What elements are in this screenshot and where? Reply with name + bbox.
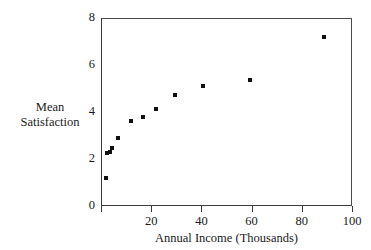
data-point (322, 35, 326, 39)
data-points-layer (102, 19, 351, 205)
y-axis-tick-label: 2 (65, 152, 95, 164)
x-axis-tick-mark (252, 206, 253, 212)
x-axis-tick-mark (151, 206, 152, 212)
y-axis-tick-label: 0 (65, 199, 95, 211)
x-axis-tick-label: 80 (282, 214, 322, 228)
data-point (173, 93, 177, 97)
y-axis-title-line-1: Mean (6, 100, 94, 115)
y-axis-title-line-2: Satisfaction (6, 115, 94, 130)
x-axis-tick-label: 100 (332, 214, 371, 228)
x-axis-tick-label: 20 (131, 214, 171, 228)
x-axis-tick-label: 40 (181, 214, 221, 228)
data-point (154, 107, 158, 111)
x-axis-tick-mark (302, 206, 303, 212)
data-point (248, 78, 252, 82)
data-point (108, 150, 112, 154)
data-point (110, 146, 114, 150)
data-point (141, 115, 145, 119)
x-axis-tick-mark (101, 206, 102, 212)
data-point (129, 119, 133, 123)
x-axis-tick-mark (352, 206, 353, 212)
plot-area (101, 18, 352, 206)
x-axis-tick-label: 60 (232, 214, 272, 228)
data-point (201, 84, 205, 88)
data-point (104, 176, 108, 180)
y-axis-title: Mean Satisfaction (6, 100, 94, 130)
data-point (116, 136, 120, 140)
y-axis-tick-label: 8 (65, 11, 95, 23)
x-axis-tick-mark (201, 206, 202, 212)
y-axis-tick-label: 6 (65, 58, 95, 70)
scatter-plot-figure: 02468 20406080100 Mean Satisfaction Annu… (0, 0, 371, 250)
x-axis-title: Annual Income (Thousands) (101, 231, 352, 245)
